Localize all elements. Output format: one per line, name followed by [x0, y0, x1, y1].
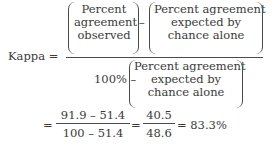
- calc-fraction1-numerator: 91.9 – 51.4: [55, 109, 131, 122]
- text-line: chance alone: [134, 86, 238, 99]
- calc-fraction1-denominator: 100 – 51.4: [55, 127, 131, 140]
- text-line: observed: [74, 29, 134, 42]
- minus-sign: –: [139, 16, 145, 29]
- calc-fraction2-numerator: 40.5: [142, 109, 176, 122]
- right-paren: [132, 2, 139, 54]
- calc-fraction2-bar: [143, 123, 175, 124]
- calc-fraction2-denominator: 48.6: [142, 127, 176, 140]
- fraction-bar: [66, 57, 263, 58]
- calc-result: = 83.3%: [177, 119, 227, 132]
- text-line: chance alone: [154, 29, 258, 42]
- calc-fraction1-bar: [56, 123, 130, 124]
- equals-sign: =: [131, 119, 141, 132]
- numerator-term2: Percent agreement expected by chance alo…: [154, 3, 258, 42]
- kappa-label: Kappa =: [8, 50, 58, 63]
- numerator-term1: Percent agreement observed: [74, 3, 134, 42]
- equals-sign: =: [43, 119, 53, 132]
- right-paren: [236, 60, 243, 108]
- denominator-term: Percent agreement expected by chance alo…: [134, 60, 238, 99]
- right-paren: [256, 2, 263, 54]
